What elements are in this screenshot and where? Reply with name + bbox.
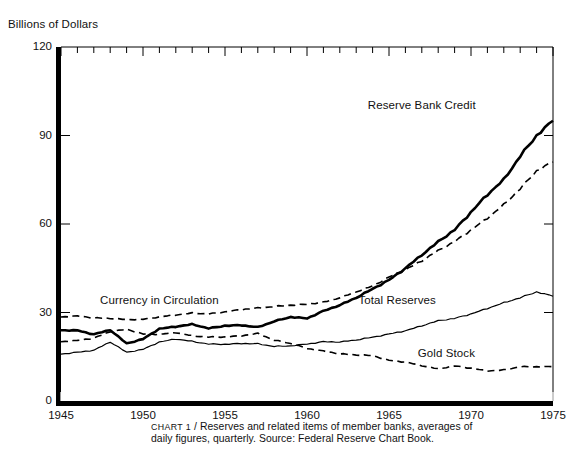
y-tick-label: 60 xyxy=(18,217,52,229)
series-label-gold-stock: Gold Stock xyxy=(418,347,475,359)
y-tick-label: 30 xyxy=(18,306,52,318)
x-tick-label: 1955 xyxy=(202,409,248,421)
x-tick-label: 1950 xyxy=(120,409,166,421)
x-axis-spine xyxy=(56,401,553,406)
series-label-total-reserves: Total Reserves xyxy=(358,294,435,306)
chart-plot-area xyxy=(0,0,573,458)
caption-chart-number: CHART 1 xyxy=(151,422,191,432)
series-label-currency-in-circulation: Currency in Circulation xyxy=(100,294,219,306)
series-line-gold-stock xyxy=(61,329,553,371)
caption-body: Reserves and related items of member ban… xyxy=(151,421,472,444)
x-tick-label: 1965 xyxy=(366,409,412,421)
series-label-reserve-bank-credit: Reserve Bank Credit xyxy=(368,99,476,111)
x-tick-label: 1945 xyxy=(38,409,84,421)
y-tick-label: 0 xyxy=(18,394,52,406)
x-tick-label: 1975 xyxy=(530,409,573,421)
y-tick-label: 90 xyxy=(18,129,52,141)
y-axis-title: Billions of Dollars xyxy=(8,18,98,30)
caption-separator: / xyxy=(191,421,200,432)
y-axis-spine xyxy=(56,47,61,406)
chart-caption: CHART 1 / Reserves and related items of … xyxy=(151,421,481,445)
x-tick-label: 1960 xyxy=(284,409,330,421)
x-tick-label: 1970 xyxy=(448,409,494,421)
chart-figure: Billions of Dollars CHART 1 / Reserves a… xyxy=(0,0,573,458)
series-line-reserve-bank-credit xyxy=(61,121,553,343)
y-tick-label: 120 xyxy=(18,40,52,52)
